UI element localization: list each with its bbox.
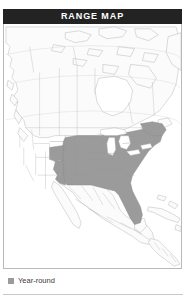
range-map-card: RANGE MAP .land { fill:#fbfbfb; stroke:#… (0, 0, 188, 302)
legend-swatch-year-round (8, 278, 14, 284)
map-layers (6, 27, 181, 266)
range-map-header: RANGE MAP (3, 9, 182, 24)
range-area-great-plains (49, 146, 63, 162)
page-title: RANGE MAP (61, 12, 124, 21)
landmass-bahamas-2 (168, 201, 178, 209)
landmass-vancouver-island (18, 128, 28, 142)
border-state-ca-nv (26, 165, 34, 181)
landmass-cuba (147, 207, 180, 223)
map-legend: Year-round (8, 277, 55, 285)
range-area-plains-lower (53, 160, 63, 175)
bottom-divider (3, 294, 183, 295)
legend-label-year-round: Year-round (18, 277, 55, 285)
landmass-central-america (148, 238, 180, 266)
landmass-hispaniola (175, 225, 181, 232)
north-america-map-svg: .land { fill:#fbfbfb; stroke:#b0b0b0; st… (4, 24, 181, 268)
landmass-alaska-island-1 (7, 80, 14, 90)
landmass-bahamas-1 (157, 195, 166, 201)
map-frame: .land { fill:#fbfbfb; stroke:#b0b0b0; st… (3, 24, 182, 269)
